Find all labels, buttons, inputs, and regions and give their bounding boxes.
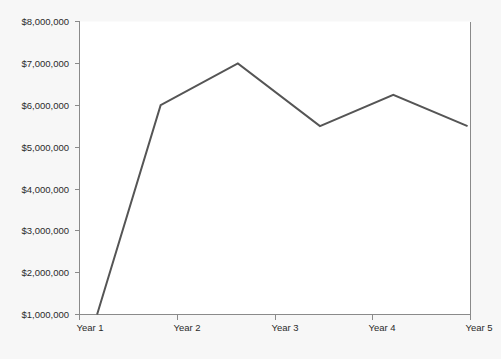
chart-canvas: $8,000,000 $7,000,000 $6,000,000 $5,000,…	[0, 0, 501, 359]
x-tick-label: Year 2	[173, 322, 200, 333]
plot-area-background	[80, 22, 471, 315]
y-tick-label: $6,000,000	[21, 100, 69, 111]
y-tick-label: $7,000,000	[21, 58, 69, 69]
x-tick-label: Year 5	[465, 322, 492, 333]
y-tick-label: $3,000,000	[21, 225, 69, 236]
y-tick-label: $8,000,000	[21, 16, 69, 27]
line-chart: $8,000,000 $7,000,000 $6,000,000 $5,000,…	[0, 0, 501, 359]
x-tick-label: Year 3	[271, 322, 298, 333]
x-tick-label: Year 4	[368, 322, 395, 333]
y-tick-label: $2,000,000	[21, 267, 69, 278]
y-tick-label: $1,000,000	[21, 309, 69, 320]
x-tick-label: Year 1	[76, 322, 103, 333]
y-tick-label: $4,000,000	[21, 184, 69, 195]
y-tick-label: $5,000,000	[21, 142, 69, 153]
